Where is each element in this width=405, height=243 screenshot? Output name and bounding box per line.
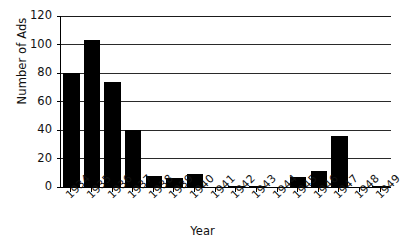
- bar-chart-figure: Number of Ads 020406080100120 1934193519…: [0, 0, 405, 243]
- x-axis-tick-labels: 1934193519361937193819391940194119421943…: [0, 0, 405, 243]
- x-axis-title: Year: [0, 225, 405, 237]
